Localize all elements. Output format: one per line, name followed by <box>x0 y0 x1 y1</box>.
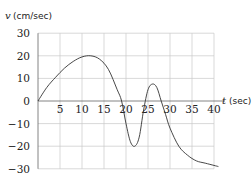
y-tick-label: −30 <box>8 163 30 175</box>
y-tick-label: 10 <box>17 72 30 84</box>
x-tick-label: 35 <box>185 103 198 115</box>
x-tick-label: 10 <box>75 103 88 115</box>
axes <box>38 33 225 169</box>
y-tick-label: 0 <box>23 95 30 107</box>
x-tick-label: 15 <box>97 103 110 115</box>
x-tick-label: 5 <box>57 103 64 115</box>
y-tick-label: 30 <box>17 27 30 39</box>
x-axis-var: t <box>222 95 227 106</box>
x-tick-label: 40 <box>207 103 220 115</box>
y-tick-label: 20 <box>17 50 30 62</box>
x-axis-unit: (sec) <box>229 96 251 106</box>
velocity-chart: 5101520253035403020100−10−20−30 v (cm/se… <box>0 0 252 185</box>
x-tick-label: 20 <box>119 103 132 115</box>
y-axis-unit: (cm/sec) <box>13 11 52 21</box>
y-axis-var: v <box>5 10 11 21</box>
y-tick-label: −20 <box>8 140 30 152</box>
y-tick-label: −10 <box>8 118 30 130</box>
